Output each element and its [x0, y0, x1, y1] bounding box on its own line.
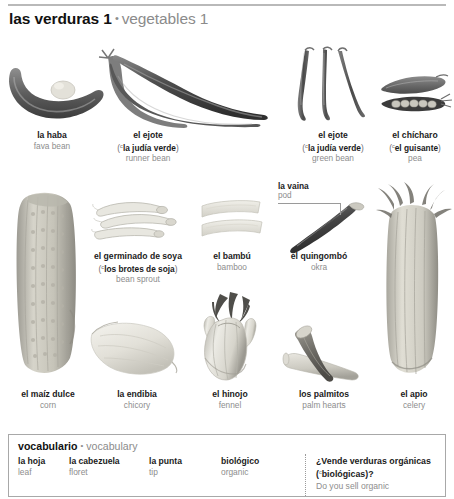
caption-spanish: el ejote [96, 130, 200, 141]
term-english: tip [149, 467, 182, 478]
caption-spanish: la endibia [95, 389, 179, 400]
caption-fennel: el hinojo fennel [190, 389, 270, 410]
caption-spanish: los palmitos [278, 389, 370, 400]
vocabulary-box: vocabulario•vocabulary la hoja leaf la c… [8, 434, 446, 497]
caption-variant: (clos brotes de soja) [78, 262, 198, 275]
caption-chicory: la endibia chicory [95, 389, 179, 410]
term-spanish: biológico [221, 456, 259, 467]
term-english: organic [221, 467, 259, 478]
vocabulary-term-tip: la punta tip [149, 456, 182, 478]
caption-english: celery [378, 400, 450, 411]
caption-spanish: la haba [4, 130, 100, 141]
pea-image [378, 72, 454, 118]
caption-bamboo: el bambú bamboo [196, 251, 268, 272]
vocabulary-term-organic: biológico organic [221, 456, 259, 478]
vocabulary-term-floret: la cabezuela floret [69, 456, 120, 478]
caption-variant: (cla judía verde) [281, 141, 385, 154]
caption-spanish: el bambú [196, 251, 268, 262]
caption-palm-hearts: los palmitos palm hearts [278, 389, 370, 410]
page-title-english: vegetables 1 [122, 10, 209, 27]
term-english: floret [69, 467, 120, 478]
term-spanish: la hoja [18, 456, 45, 467]
vocabulary-title-spanish: vocabulario [18, 440, 77, 452]
caption-english: bean sprout [78, 274, 198, 285]
page-title-spanish: las verduras 1 [9, 10, 112, 27]
runner-bean-image [88, 46, 278, 128]
fennel-image [190, 292, 270, 384]
caption-variant-term: la judía verde [308, 143, 361, 153]
caption-spanish: el chícharo [376, 130, 454, 141]
caption-celery: el apio celery [378, 389, 450, 410]
caption-variant: (cla judía verde) [96, 141, 200, 154]
vocabulary-phrase: ¿Vende verduras orgánicas (cbiológicas)?… [316, 456, 444, 493]
caption-variant-term: el guisante [395, 143, 438, 153]
celery-image [376, 186, 452, 382]
okra-image [283, 200, 369, 256]
caption-english: palm hearts [278, 400, 370, 411]
vocabulary-term-leaf: la hoja leaf [18, 456, 45, 478]
phrase-spanish-line1: ¿Vende verduras orgánicas [316, 456, 444, 467]
vocabulary-title: vocabulario•vocabulary [18, 440, 138, 452]
caption-english: okra [276, 262, 362, 273]
caption-spanish: el germinado de soya [78, 251, 198, 262]
bean-sprout-image [92, 198, 184, 244]
term-spanish: la punta [149, 456, 182, 467]
callout-english: pod [278, 191, 309, 201]
caption-english: chicory [95, 400, 179, 411]
caption-english: fava bean [4, 141, 100, 152]
palm-hearts-image [280, 318, 366, 382]
vocabulary-title-english: vocabulary [86, 440, 137, 452]
caption-okra: el quingombó okra [276, 251, 362, 272]
phrase-paren-close: )? [365, 469, 373, 479]
caption-spanish: el apio [378, 389, 450, 400]
caption-green-bean: el ejote (cla judía verde) green bean [281, 130, 385, 164]
header-divider [8, 4, 446, 6]
caption-english: corn [4, 400, 92, 411]
term-spanish: la cabezuela [69, 456, 120, 467]
callout-spanish: la vaina [278, 181, 309, 191]
caption-variant: (cel guisante) [376, 141, 454, 154]
caption-spanish: el maíz dulce [4, 389, 92, 400]
callout-leader-horizontal [278, 203, 340, 204]
green-bean-image [290, 47, 368, 122]
phrase-variant-term: biológicas [322, 469, 366, 479]
phrase-spanish-line2: (cbiológicas)? [316, 467, 444, 480]
callout-pod: la vaina pod [278, 181, 309, 201]
caption-variant-term: los brotes de soja [104, 264, 175, 274]
caption-runner-bean: el ejote (cla judía verde) runner bean [96, 130, 200, 164]
corn-image [6, 190, 86, 380]
phrase-english: Do you sell organic [316, 481, 444, 492]
caption-spanish: el hinojo [190, 389, 270, 400]
caption-pea: el chícharo (cel guisante) pea [376, 130, 454, 164]
caption-english: fennel [190, 400, 270, 411]
vocabulary-divider [305, 454, 306, 497]
title-bullet-icon: • [112, 12, 122, 24]
caption-spanish: el quingombó [276, 251, 362, 262]
vegetables-vocabulary-page: las verduras 1•vegetables 1 [0, 0, 454, 499]
bamboo-image [198, 198, 266, 246]
caption-bean-sprout: el germinado de soya (clos brotes de soj… [78, 251, 198, 285]
caption-fava-bean: la haba fava bean [4, 130, 100, 151]
caption-spanish: el ejote [281, 130, 385, 141]
caption-english: green bean [281, 153, 385, 164]
page-title: las verduras 1•vegetables 1 [9, 10, 208, 28]
vocabulary-bullet-icon: • [77, 441, 86, 450]
term-english: leaf [18, 467, 45, 478]
chicory-image [88, 318, 180, 382]
caption-english: bamboo [196, 262, 268, 273]
caption-corn: el maíz dulce corn [4, 389, 92, 410]
callout-leader-vertical [340, 203, 341, 215]
caption-variant-term: la judía verde [123, 143, 176, 153]
caption-english: pea [376, 153, 454, 164]
caption-english: runner bean [96, 153, 200, 164]
